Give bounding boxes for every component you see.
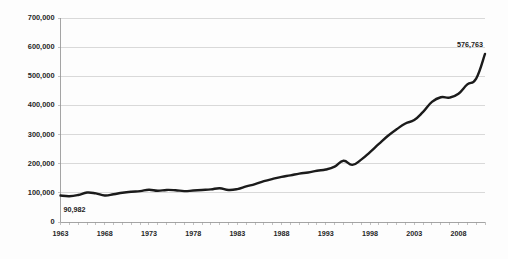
y-axis-tick-label: 100,000 xyxy=(28,188,55,197)
y-axis-tick-label: 0 xyxy=(50,217,54,226)
data-point-annotations: 90,982576,763 xyxy=(64,40,484,215)
start-value-label: 90,982 xyxy=(64,205,86,214)
x-axis-tick-label: 1993 xyxy=(318,229,334,238)
line-chart-figure: 700,000600,000500,000400,000300,000200,0… xyxy=(0,0,508,259)
x-axis-tick-label: 1968 xyxy=(97,229,113,238)
x-axis-labels: 1963196819731978198319881993199820032008 xyxy=(53,229,467,238)
chart-canvas: 700,000600,000500,000400,000300,000200,0… xyxy=(0,0,508,259)
y-axis-tick-label: 300,000 xyxy=(28,130,55,139)
x-axis-tick-label: 1983 xyxy=(229,229,245,238)
data-series-line xyxy=(61,54,486,196)
y-axis-tick-label: 500,000 xyxy=(28,71,55,80)
x-axis-tick-label: 1963 xyxy=(53,229,69,238)
gridlines xyxy=(58,18,486,222)
x-axis-tick-label: 1973 xyxy=(141,229,157,238)
y-axis-tick-label: 200,000 xyxy=(28,159,55,168)
y-axis-labels: 700,000600,000500,000400,000300,000200,0… xyxy=(28,13,55,226)
y-axis-tick-label: 400,000 xyxy=(28,100,55,109)
x-axis-tick-label: 1998 xyxy=(362,229,378,238)
end-value-label: 576,763 xyxy=(457,40,483,49)
x-axis-tick-label: 2003 xyxy=(406,229,422,238)
x-axis-tick-label: 1988 xyxy=(274,229,290,238)
y-axis-tick-label: 600,000 xyxy=(28,42,55,51)
x-axis-tick-label: 1978 xyxy=(185,229,201,238)
x-axis-tick-label: 2008 xyxy=(450,229,466,238)
y-axis-tick-label: 700,000 xyxy=(28,13,55,22)
